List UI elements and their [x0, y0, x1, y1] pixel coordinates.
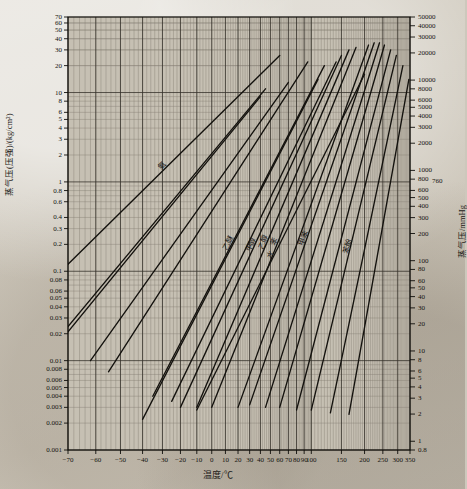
- y-axis-right-tick: 400: [418, 202, 429, 210]
- x-axis-title: 温度/℃: [203, 468, 233, 481]
- y-axis-left-tick: 3: [0, 135, 62, 143]
- x-axis-tick: −70: [57, 456, 79, 464]
- y-axis-left-tick: 5: [0, 115, 62, 123]
- y-axis-right-tick: 300: [418, 214, 429, 222]
- y-axis-right-tick: 2: [418, 410, 422, 418]
- y-axis-left-tick: 4: [0, 124, 62, 132]
- y-axis-right-tick: 2000: [418, 139, 432, 147]
- y-axis-left-tick: 0.001: [0, 446, 62, 454]
- y-axis-right-tick: 0.8: [418, 446, 427, 454]
- y-axis-right-tick: 3: [418, 394, 422, 402]
- y-axis-left-tick: 2: [0, 151, 62, 159]
- x-axis-tick: 350: [399, 456, 421, 464]
- y-axis-left-tick: 30: [0, 46, 62, 54]
- y-axis-right-tick: 3000: [418, 123, 432, 131]
- y-axis-right-tick: 50: [418, 284, 425, 292]
- y-axis-left-tick: 8: [0, 97, 62, 105]
- y-axis-right-tick: 80: [418, 265, 425, 273]
- y-axis-right-title: 蒸气压/mmHg: [455, 205, 467, 258]
- y-axis-left-tick: 0.1: [0, 267, 62, 275]
- y-axis-left-tick: 0.01: [0, 357, 62, 365]
- y-axis-left-tick: 0.05: [0, 294, 62, 302]
- x-axis-tick: −50: [109, 456, 131, 464]
- y-axis-right-tick: 30000: [418, 33, 436, 41]
- y-axis-left-tick: 20: [0, 62, 62, 70]
- y-axis-left-tick: 0.04: [0, 303, 62, 311]
- y-axis-left-tick: 0.4: [0, 213, 62, 221]
- y-axis-left-tick: 0.6: [0, 198, 62, 206]
- y-axis-right-tick: 200: [418, 230, 429, 238]
- y-axis-left-tick: 0.004: [0, 392, 62, 400]
- y-axis-left-tick: 0.03: [0, 314, 62, 322]
- y-axis-left-tick: 0.003: [0, 403, 62, 411]
- y-axis-right-tick: 5: [418, 374, 422, 382]
- y-axis-left-tick: 0.8: [0, 187, 62, 195]
- y-axis-right-tick: 4: [418, 383, 422, 391]
- y-axis-right-tick: 20: [418, 320, 425, 328]
- y-axis-right-tick: 10: [418, 347, 425, 355]
- y-axis-left-tick: 1: [0, 178, 62, 186]
- y-axis-right-tick: 30: [418, 304, 425, 312]
- y-axis-right-tick: 1: [418, 437, 422, 445]
- y-axis-left-tick: 0.2: [0, 240, 62, 248]
- y-axis-right-tick: 1000: [418, 166, 432, 174]
- x-axis-tick: −40: [132, 456, 154, 464]
- y-axis-right-tick-760: 760: [432, 177, 443, 185]
- y-axis-left-tick: 0.02: [0, 330, 62, 338]
- y-axis-left-tick: 0.005: [0, 384, 62, 392]
- y-axis-left-tick: 50: [0, 26, 62, 34]
- y-axis-right-tick: 10000: [418, 76, 436, 84]
- y-axis-left-tick: 40: [0, 35, 62, 43]
- y-axis-right-tick: 5000: [418, 103, 432, 111]
- y-axis-left-tick: 10: [0, 89, 62, 97]
- y-axis-right-tick: 50000: [418, 13, 436, 21]
- y-axis-right-tick: 40000: [418, 22, 436, 30]
- y-axis-left-tick: 0.3: [0, 225, 62, 233]
- y-axis-left-tick: 0.002: [0, 419, 62, 427]
- y-axis-right-tick: 800: [418, 175, 429, 183]
- x-axis-tick: 100: [300, 456, 322, 464]
- y-axis-right-tick: 500: [418, 194, 429, 202]
- x-axis-tick: −60: [85, 456, 107, 464]
- y-axis-right-tick: 100: [418, 257, 429, 265]
- y-axis-right-tick: 40: [418, 293, 425, 301]
- y-axis-right-tick: 8000: [418, 85, 432, 93]
- y-axis-left-tick: 0.08: [0, 276, 62, 284]
- y-axis-right-tick: 8: [418, 356, 422, 364]
- y-axis-right-tick: 20000: [418, 49, 436, 57]
- x-axis-tick: 150: [330, 456, 352, 464]
- y-axis-right-tick: 4000: [418, 112, 432, 120]
- y-axis-left-tick: 0.008: [0, 365, 62, 373]
